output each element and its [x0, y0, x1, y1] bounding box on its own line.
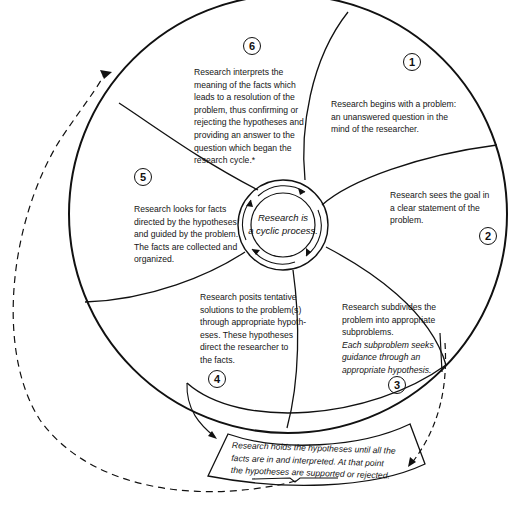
step-3-italic-line: appropriate hypothesis. [342, 364, 436, 377]
step-3-italic-line: guidance through an [342, 351, 436, 364]
step-2-text: Research sees the goal in a clear statem… [390, 189, 489, 227]
step-6-line: question which began the [194, 142, 304, 155]
step-6-line: Research interprets the [194, 66, 304, 79]
step-4-line: through appropriate hypoth- [200, 316, 306, 329]
step-1-number: 1 [403, 53, 421, 71]
step-5-line: Research looks for facts [134, 203, 238, 216]
step-5-line: organized. [134, 253, 238, 266]
step-2-line: Research sees the goal in [390, 189, 489, 202]
center-label-line: a cyclic process. [243, 224, 323, 237]
step-4-line: Research posits tentative [200, 291, 306, 304]
step-4-line: the facts. [200, 354, 306, 367]
step-6-line: research cycle.* [194, 154, 304, 167]
step-5-line: directed by the hypotheses [134, 216, 238, 229]
step-4-line: eses. These hypotheses [200, 329, 306, 342]
step-1-line: an unanswered question in the [331, 111, 456, 124]
step-6-number: 6 [243, 37, 261, 55]
step-4-text: Research posits tentative solutions to t… [200, 291, 306, 367]
step-1-line: Research begins with a problem: [331, 98, 456, 111]
step-4-line: direct the researcher to [200, 341, 306, 354]
center-label-line: Research is [243, 211, 323, 224]
step-5-number: 5 [134, 168, 152, 186]
step-5-text: Research looks for facts directed by the… [134, 203, 238, 266]
step-2-number: 2 [479, 227, 497, 245]
step-6-line: problem, thus confirming or [194, 104, 304, 117]
step-6-line: meaning of the facts which [194, 79, 304, 92]
step-6-text: Research interprets the meaning of the f… [194, 66, 304, 167]
step-3-line: subproblems. [342, 326, 436, 339]
step-1-line: mind of the researcher. [331, 123, 456, 136]
step-6-line: providing an answer to the [194, 129, 304, 142]
center-label: Research is a cyclic process. [243, 211, 323, 237]
step-2-line: a clear statement of the [390, 202, 489, 215]
step-3-line: Research subdivides the [342, 301, 436, 314]
step-3-text: Research subdivides the problem into app… [342, 301, 436, 377]
step-6-line: rejecting the hypotheses and [194, 116, 304, 129]
step-6-line: leads to a resolution of the [194, 91, 304, 104]
hold-box-text: Research holds the hypotheses until all … [231, 439, 396, 482]
step-4-line: solutions to the problem(s) [200, 304, 306, 317]
step-3-number: 3 [388, 376, 406, 394]
step-3-line: problem into appropriate [342, 314, 436, 327]
step-1-text: Research begins with a problem: an unans… [331, 98, 456, 136]
step-2-line: problem. [390, 214, 489, 227]
step-5-line: and guided by the problem. [134, 228, 238, 241]
step-4-number: 4 [208, 370, 226, 388]
step-5-line: The facts are collected and [134, 241, 238, 254]
step-3-italic-line: Each subproblem seeks [342, 339, 436, 352]
